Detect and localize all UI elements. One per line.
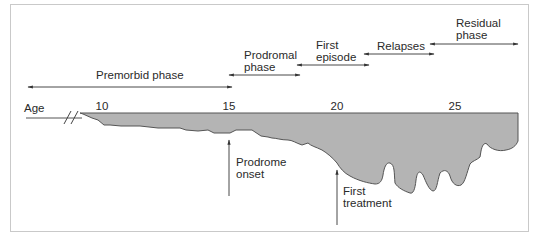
residual-line2: phase [456, 29, 501, 41]
prodromal-line2: phase [244, 61, 297, 73]
prodromal-line1: Prodromal [244, 49, 297, 61]
first-episode-label: First episode [316, 39, 356, 63]
first-treatment-label: First treatment [343, 185, 392, 209]
prodrome-onset-line1: Prodrome [236, 156, 287, 168]
first-treatment-line1: First [343, 185, 392, 197]
residual-phase-label: Residual phase [456, 17, 501, 41]
functioning-area [80, 113, 518, 193]
premorbid-phase-label: Premorbid phase [96, 69, 184, 81]
tick-label-10: 10 [90, 100, 114, 112]
relapses-label: Relapses [377, 40, 425, 52]
residual-line1: Residual [456, 17, 501, 29]
tick-label-25: 25 [443, 100, 467, 112]
first-episode-line2: episode [316, 51, 356, 63]
prodrome-onset-label: Prodrome onset [236, 156, 287, 180]
tick-label-15: 15 [217, 100, 241, 112]
tick-label-20: 20 [325, 100, 349, 112]
prodromal-phase-label: Prodromal phase [244, 49, 297, 73]
prodrome-onset-line2: onset [236, 168, 287, 180]
first-treatment-line2: treatment [343, 197, 392, 209]
age-axis-label: Age [24, 102, 44, 114]
first-episode-line1: First [316, 39, 356, 51]
